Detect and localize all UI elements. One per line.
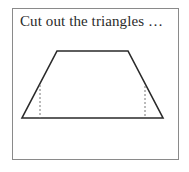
trapezoid-diagram bbox=[0, 0, 189, 172]
trapezoid-outline bbox=[22, 51, 163, 118]
